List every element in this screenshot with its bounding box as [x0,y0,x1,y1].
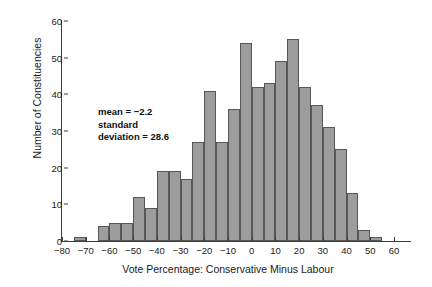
annotation-standard: standard [98,119,169,132]
histogram-bar [145,208,157,241]
histogram-bar [74,237,86,241]
histogram-bar [287,39,299,241]
histogram-bar [109,223,121,241]
stats-annotation: mean = −2.2 standard deviation = 28.6 [98,106,169,144]
histogram-bar [181,179,193,241]
annotation-mean: mean = −2.2 [98,106,169,119]
x-tick-mark [228,237,229,241]
x-axis-label: Vote Percentage: Conservative Minus Labo… [62,263,394,275]
histogram-bar [228,109,240,241]
x-tick-mark [86,237,87,241]
x-tick-mark [394,237,395,241]
x-tick-label: 60 [379,246,409,255]
histogram-bar [347,193,359,241]
x-axis-line [61,241,411,242]
histogram-bar [121,223,133,241]
x-tick-mark [252,237,253,241]
histogram-bar [98,226,110,241]
histogram-figure: 0102030405060 mean = −2.2 standard devia… [0,0,432,287]
y-tick-label: 10 [22,200,62,209]
histogram-bar [264,83,276,241]
histogram-bar [299,87,311,241]
x-tick-mark [299,237,300,241]
histogram-bar [169,171,181,241]
x-tick-mark [62,237,63,241]
y-axis-label: Number of Constituencies [31,23,43,173]
x-tick-mark [109,237,110,241]
histogram-bar [157,171,169,241]
histogram-bar [275,61,287,241]
histogram-bar [204,91,216,241]
histogram-bar [192,142,204,241]
histogram-bar [370,237,382,241]
histogram-bar [358,230,370,241]
histogram-bar [311,105,323,241]
histogram-bar [133,197,145,241]
x-tick-mark [157,237,158,241]
top-caption-sliver [48,0,348,3]
x-tick-mark [275,237,276,241]
x-tick-mark [204,237,205,241]
histogram-bar [252,87,264,241]
x-tick-mark [181,237,182,241]
x-tick-mark [370,237,371,241]
x-tick-mark [133,237,134,241]
annotation-deviation: deviation = 28.6 [98,131,169,144]
x-tick-mark [323,237,324,241]
x-tick-mark [347,237,348,241]
histogram-bar [335,149,347,241]
histogram-bar [240,43,252,241]
histogram-bar [216,142,228,241]
histogram-bar [323,127,335,241]
